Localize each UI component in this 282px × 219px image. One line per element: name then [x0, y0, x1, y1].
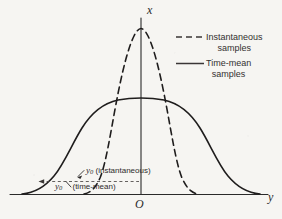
x-axis-label: x	[147, 4, 152, 16]
legend-label-time-mean-line2: samples	[206, 69, 251, 80]
annotation-instantaneous-subscript: 0	[90, 168, 93, 175]
annotation-time-mean-subscript: 0	[59, 184, 62, 191]
annotation-instantaneous-text: (instantaneous)	[95, 166, 150, 175]
annotation-time-mean-text: (time-mean)	[72, 182, 115, 191]
leader-time-mean-arrow	[39, 179, 45, 183]
legend-label-instantaneous-line1: Instantaneous	[206, 32, 263, 42]
annotation-instantaneous: y0 (instantaneous)	[86, 166, 151, 176]
legend-label-instantaneous-line2: samples	[206, 43, 263, 54]
annotation-time-mean: y0 (time-mean)	[55, 182, 116, 192]
legend-label-time-mean-line1: Time-mean	[206, 58, 251, 68]
legend-entry-time-mean: Time-mean samples	[206, 58, 251, 79]
leader-instantaneous	[78, 171, 84, 177]
legend-entry-instantaneous: Instantaneous samples	[206, 32, 263, 53]
y-axis-label: y	[268, 191, 273, 203]
figure-container: x y O Instantaneous samples Time-mean sa…	[0, 0, 282, 219]
origin-label: O	[135, 198, 144, 210]
